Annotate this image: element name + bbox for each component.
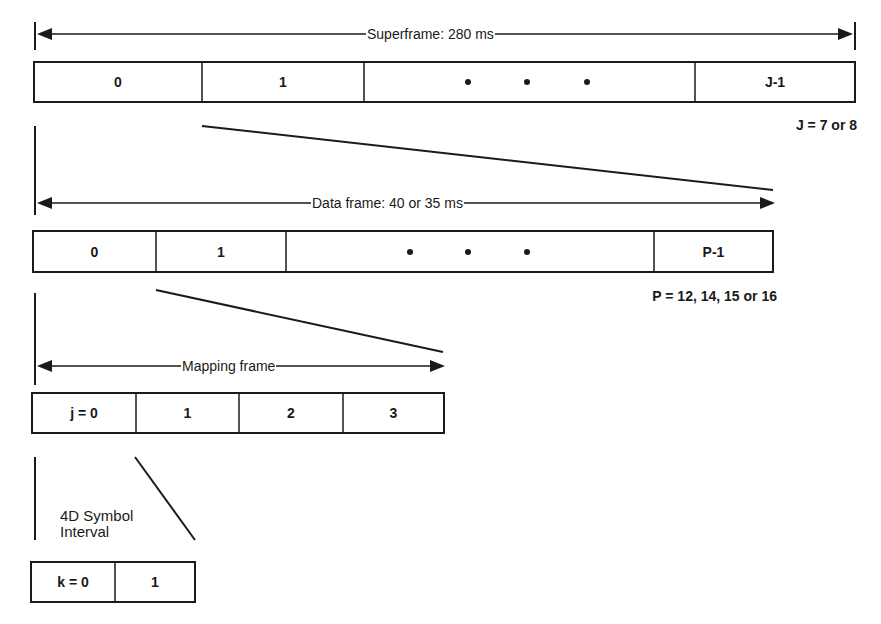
data-frame-label: Data frame: 40 or 35 ms: [311, 195, 464, 211]
ellipsis-dot: [584, 79, 590, 85]
data-frame-cell-0: 0: [33, 244, 156, 260]
ellipsis-dot: [465, 249, 471, 255]
superframe-note: J = 7 or 8: [796, 117, 857, 133]
superframe-cell-last: J-1: [695, 74, 855, 90]
mapping-frame-cell-2: 2: [239, 405, 343, 421]
symbol-interval-label-line2: Interval: [60, 524, 109, 540]
data-frame-cell-last: P-1: [654, 244, 773, 260]
ellipsis-dot: [524, 79, 530, 85]
mapping-frame-cell-3: 3: [343, 405, 444, 421]
ellipsis-dot: [465, 79, 471, 85]
diagram-lines: [0, 0, 881, 624]
mapping-frame-cell-1: 1: [136, 405, 239, 421]
symbol-interval-cell-1: 1: [115, 574, 195, 590]
superframe-cell-1: 1: [202, 74, 364, 90]
superframe-cell-0: 0: [34, 74, 202, 90]
mapping-frame-label: Mapping frame: [181, 358, 276, 374]
superframe-label: Superframe: 280 ms: [366, 26, 495, 42]
symbol-interval-label-line1: 4D Symbol: [60, 508, 133, 524]
ellipsis-dot: [407, 249, 413, 255]
data-frame-note: P = 12, 14, 15 or 16: [652, 288, 777, 304]
symbol-interval-cell-0: k = 0: [31, 574, 115, 590]
data-frame-cell-1: 1: [156, 244, 286, 260]
mapping-frame-cell-0: j = 0: [32, 405, 136, 421]
ellipsis-dot: [524, 249, 530, 255]
